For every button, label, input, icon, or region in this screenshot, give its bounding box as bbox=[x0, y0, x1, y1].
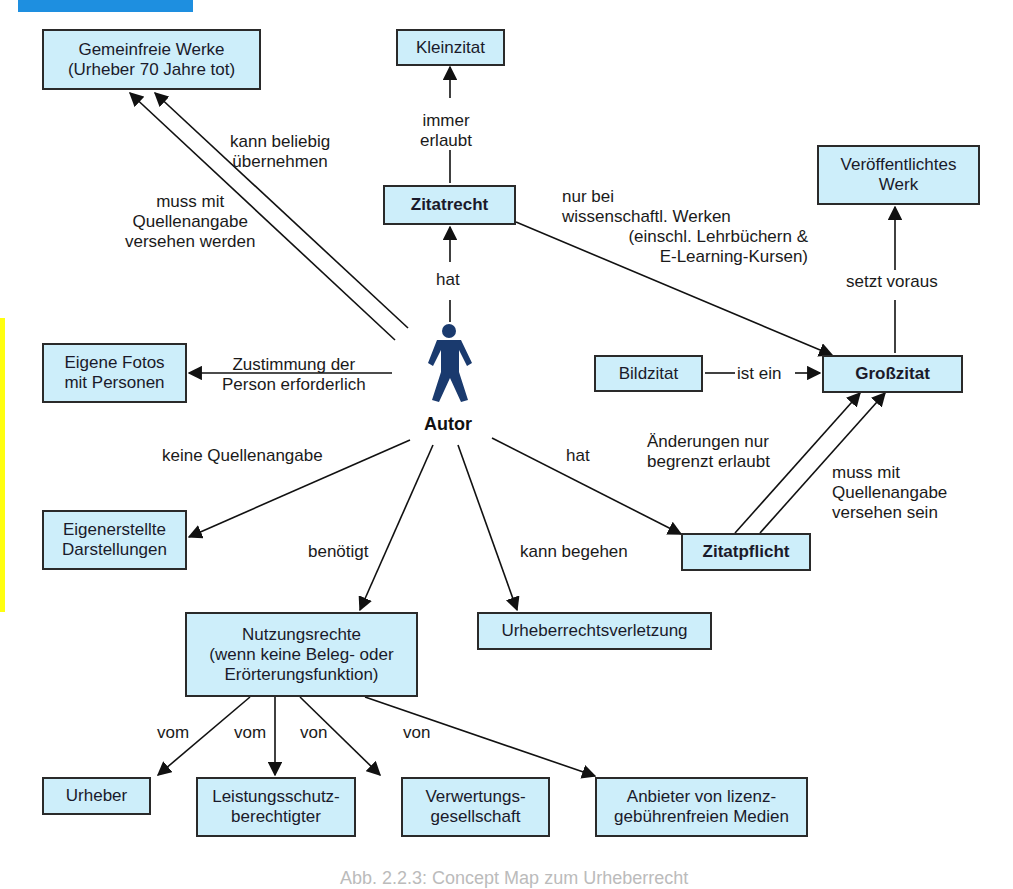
edge-label-muss-quellen-sein: muss mit Quellenangabe versehen sein bbox=[832, 463, 947, 523]
node-grosszitat: Großzitat bbox=[822, 355, 963, 393]
edge-label-benoetigt: benötigt bbox=[308, 542, 369, 562]
node-veroeffentlichtes-werk: Veröffentlichtes Werk bbox=[817, 145, 980, 205]
edge-label-kann-beliebig: kann beliebig übernehmen bbox=[230, 132, 330, 172]
edge-label-kann-begehen: kann begehen bbox=[520, 542, 628, 562]
node-leistungsschutzberechtigter: Leistungsschutz- berechtigter bbox=[196, 777, 356, 837]
node-nutzungsrechte: Nutzungsrechte (wenn keine Beleg- oder E… bbox=[185, 612, 418, 697]
edge-label-muss-quellen-werden: muss mit Quellenangabe versehen werden bbox=[125, 192, 255, 252]
autor-label: Autor bbox=[424, 414, 472, 435]
node-zitatrecht: Zitatrecht bbox=[383, 185, 516, 225]
node-anbieter-lizenzfreie-medien: Anbieter von lizenz- gebührenfreien Medi… bbox=[595, 777, 808, 837]
edge-label-hat-zitatpflicht: hat bbox=[566, 446, 590, 466]
node-zitatpflicht: Zitatpflicht bbox=[681, 533, 811, 571]
edge-label-immer-erlaubt: immer erlaubt bbox=[420, 111, 472, 151]
node-eigene-fotos: Eigene Fotos mit Personen bbox=[42, 343, 187, 403]
node-bildzitat: Bildzitat bbox=[594, 355, 703, 392]
edge-label-von-verwertung: von bbox=[300, 723, 327, 743]
edge-label-keine-quellenangabe: keine Quellenangabe bbox=[162, 446, 323, 466]
edge-label-nur-bei: nur bei wissenschaftl. Werken bbox=[562, 187, 731, 227]
edge-label-einschl: (einschl. Lehrbüchern & E-Learning-Kurse… bbox=[600, 227, 808, 267]
edge-label-ist-ein: ist ein bbox=[737, 364, 781, 384]
node-eigenerstellte-darstellungen: Eigenerstellte Darstellungen bbox=[42, 510, 187, 570]
figure-caption: Abb. 2.2.3: Concept Map zum Urheberrecht bbox=[340, 868, 688, 889]
node-verwertungsgesellschaft: Verwertungs- gesellschaft bbox=[401, 777, 550, 837]
edge-label-vom-urheber: vom bbox=[157, 723, 189, 743]
node-kleinzitat: Kleinzitat bbox=[396, 29, 505, 66]
edge-label-aenderungen: Änderungen nur begrenzt erlaubt bbox=[647, 432, 770, 472]
node-gemeinfreie-werke: Gemeinfreie Werke (Urheber 70 Jahre tot) bbox=[42, 29, 261, 90]
edge-label-hat-zitatrecht: hat bbox=[436, 270, 460, 290]
edge-label-setzt-voraus: setzt voraus bbox=[846, 272, 938, 292]
edge-label-vom-leistungsschutz: vom bbox=[234, 723, 266, 743]
node-urheberrechtsverletzung: Urheberrechtsverletzung bbox=[477, 612, 712, 650]
edge-label-zustimmung: Zustimmung der Person erforderlich bbox=[222, 355, 366, 395]
edge-label-von-anbieter: von bbox=[403, 723, 430, 743]
person-icon bbox=[428, 324, 472, 402]
node-urheber: Urheber bbox=[42, 777, 151, 815]
